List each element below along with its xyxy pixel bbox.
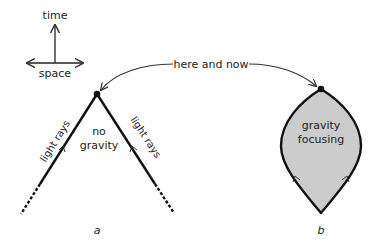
connector-arrow-right: [249, 64, 316, 86]
caption-a: a: [94, 224, 101, 237]
no-gravity-line2: gravity: [80, 139, 119, 152]
event-point-a: [94, 91, 101, 98]
gravity-focusing-line1: gravity: [302, 119, 341, 132]
panel-b: gravity focusing b: [281, 86, 361, 237]
right-light-ray-dashed: [155, 184, 174, 213]
time-label: time: [43, 9, 68, 22]
axes-indicator: time space: [27, 9, 83, 80]
spacetime-diagram: time space here and now light rays light…: [0, 0, 382, 245]
space-label: space: [39, 67, 72, 80]
caption-b: b: [318, 224, 325, 237]
event-point-b: [318, 86, 325, 93]
panel-a: light rays light rays no gravity a: [21, 91, 174, 237]
left-light-ray-dashed: [21, 184, 40, 214]
no-gravity-line1: no: [92, 125, 106, 138]
here-and-now-connector: here and now: [101, 58, 316, 90]
here-and-now-label: here and now: [173, 58, 248, 71]
connector-arrow-left: [101, 64, 173, 90]
gravity-focusing-line2: focusing: [298, 133, 344, 146]
focusing-lens-shape: [281, 89, 361, 213]
